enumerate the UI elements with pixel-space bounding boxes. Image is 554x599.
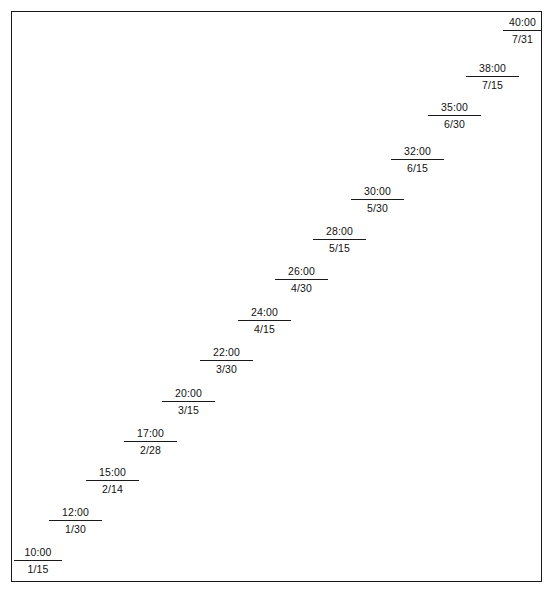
step-date: 5/30 [351,200,404,215]
step-label: 28:005/15 [313,225,366,255]
step-label: 24:004/15 [238,306,291,336]
step-value: 32:00 [391,145,444,160]
step-label: 12:001/30 [49,506,102,536]
step-date: 4/30 [275,280,328,295]
step-value: 26:00 [275,265,328,280]
step-date: 6/15 [391,160,444,175]
step-date: 2/28 [124,442,177,457]
step-label: 22:003/30 [200,346,253,376]
step-label: 10:001/15 [14,546,62,576]
step-label: 32:006/15 [391,145,444,175]
step-date: 3/15 [162,402,215,417]
step-date: 7/15 [466,77,519,92]
step-date: 5/15 [313,240,366,255]
step-value: 35:00 [428,101,481,116]
step-label: 26:004/30 [275,265,328,295]
step-label: 35:006/30 [428,101,481,131]
plot-frame [11,11,542,582]
step-value: 28:00 [313,225,366,240]
step-label: 20:003/15 [162,387,215,417]
scan-artifact [14,588,344,597]
step-date: 7/31 [503,31,542,46]
figure-canvas: 10:001/1512:001/3015:002/1417:002/2820:0… [0,0,554,599]
step-label: 17:002/28 [124,427,177,457]
step-value: 30:00 [351,185,404,200]
step-value: 12:00 [49,506,102,521]
step-date: 1/15 [14,561,62,576]
step-value: 17:00 [124,427,177,442]
step-value: 20:00 [162,387,215,402]
step-value: 15:00 [86,466,139,481]
step-label: 30:005/30 [351,185,404,215]
step-label: 40:007/31 [503,16,542,46]
step-date: 4/15 [238,321,291,336]
step-value: 38:00 [466,62,519,77]
step-label: 38:007/15 [466,62,519,92]
step-value: 10:00 [14,546,62,561]
step-value: 22:00 [200,346,253,361]
step-value: 40:00 [503,16,542,31]
step-label: 15:002/14 [86,466,139,496]
step-date: 2/14 [86,481,139,496]
step-date: 3/30 [200,361,253,376]
step-date: 1/30 [49,521,102,536]
step-date: 6/30 [428,116,481,131]
step-value: 24:00 [238,306,291,321]
